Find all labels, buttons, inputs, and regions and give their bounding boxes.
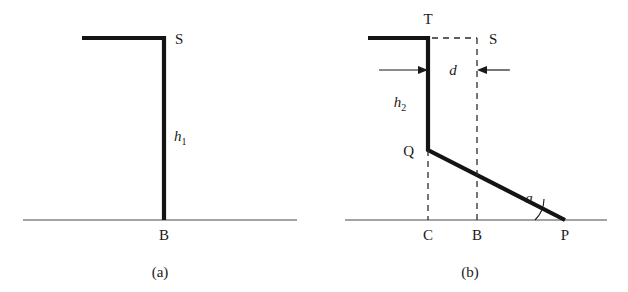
panel-b-dimension-arrow-left: [379, 66, 428, 74]
panel-b-dimension-label-d: d: [449, 62, 457, 78]
figure-root: S B h1 (a): [0, 0, 628, 292]
panel-b-point-label-Q: Q: [403, 143, 414, 159]
panel-b-point-label-P: P: [561, 227, 569, 243]
panel-b-point-label-B: B: [472, 227, 482, 243]
panel-b-h2-subscript: 2: [401, 102, 406, 113]
panel-a-dimension-label-h1: h1: [174, 128, 187, 147]
panel-b-dimension-arrow-right: [477, 66, 510, 74]
panel-a-mast-path: [82, 38, 164, 220]
panel-b-mast-and-slant-path: [368, 38, 565, 220]
panel-b: d h2 a T S Q C B P (b): [345, 11, 607, 281]
panel-a-point-label-B: B: [159, 227, 169, 243]
panel-a-h1-symbol: h: [174, 128, 182, 144]
panel-a-caption: (a): [152, 264, 169, 281]
panel-a-h1-subscript: 1: [182, 136, 187, 147]
panel-a: S B h1 (a): [23, 31, 297, 281]
panel-b-h2-symbol: h: [394, 94, 402, 110]
panel-b-dimension-label-h2: h2: [394, 94, 407, 113]
panel-b-point-label-C: C: [423, 227, 433, 243]
figure-svg: S B h1 (a): [0, 0, 628, 292]
panel-a-point-label-S: S: [175, 31, 183, 47]
panel-b-point-label-S: S: [489, 31, 497, 47]
panel-b-point-label-T: T: [423, 11, 432, 27]
panel-b-caption: (b): [461, 264, 479, 281]
panel-b-angle-label-alpha: a: [525, 190, 533, 206]
